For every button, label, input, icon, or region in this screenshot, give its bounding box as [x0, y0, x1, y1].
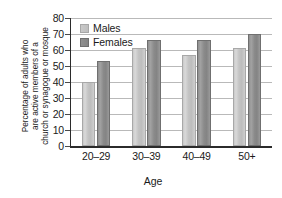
y-tick-label: 60	[44, 45, 64, 56]
bar-females-3	[248, 34, 262, 146]
legend-item-males: Males	[80, 22, 133, 34]
bar-females-2	[197, 40, 211, 146]
bar-males-2	[182, 55, 196, 146]
bar-males-3	[233, 48, 247, 146]
bar-males-0	[82, 82, 96, 146]
x-tick-label: 40–49	[183, 151, 211, 162]
x-tick-label: 30–39	[132, 151, 160, 162]
x-tick-label: 50+	[238, 151, 255, 162]
legend-swatch-females-icon	[80, 38, 89, 47]
bar-females-1	[147, 40, 161, 146]
y-axis-title-line-1: Percentage of adults who	[20, 40, 30, 132]
x-tick-label: 20–29	[82, 151, 110, 162]
y-tick-label: 80	[44, 13, 64, 24]
legend-swatch-males-icon	[80, 24, 89, 33]
y-tick-label: 50	[44, 61, 64, 72]
bar-males-1	[132, 48, 146, 146]
y-tick-label: 0	[44, 141, 64, 152]
y-tick-label: 30	[44, 93, 64, 104]
x-axis-line	[70, 146, 272, 148]
legend-label-males: Males	[93, 23, 121, 34]
bar-group	[182, 18, 211, 146]
y-axis-tick-labels: 80706050403020100	[44, 0, 64, 198]
bar-group	[132, 18, 161, 146]
bar-chart: Percentage of adults who are active memb…	[0, 0, 282, 198]
y-tick-label: 40	[44, 77, 64, 88]
bar-group	[233, 18, 262, 146]
legend-item-females: Females	[80, 36, 133, 48]
legend-label-females: Females	[93, 37, 133, 48]
y-tick-label: 20	[44, 109, 64, 120]
chart-legend: Males Females	[80, 22, 133, 48]
x-axis-title: Age	[0, 176, 282, 187]
y-tick-label: 70	[44, 29, 64, 40]
y-axis-title-line-2: are active members of a	[30, 42, 40, 130]
bar-females-0	[97, 61, 111, 146]
y-tick-label: 10	[44, 125, 64, 136]
